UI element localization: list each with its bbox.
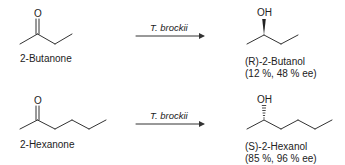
reaction-scheme: O OH O OH T. brockii T. brockii 2-Butano… xyxy=(0,0,345,165)
substrate-name-2: 2-Hexanone xyxy=(20,139,74,151)
s-2-hexanol-structure xyxy=(247,106,332,130)
wedge-bond xyxy=(262,19,266,35)
oxygen-label-1: O xyxy=(34,9,42,19)
reaction-arrow-1 xyxy=(136,33,205,39)
oxygen-label-2: O xyxy=(34,96,42,106)
reagent-label-1: T. brockii xyxy=(150,22,188,33)
product-name-1: (R)-2-Butanol xyxy=(245,56,305,68)
hash-bond xyxy=(262,106,266,119)
product-name-2: (S)-2-Hexanol xyxy=(245,141,307,153)
product-result-1: (12 %, 48 % ee) xyxy=(245,68,317,80)
r-2-butanol-structure xyxy=(247,19,298,44)
product-result-2: (85 %, 96 % ee) xyxy=(245,153,317,165)
hydroxyl-label-1: OH xyxy=(257,8,272,18)
reagent-label-2: T. brockii xyxy=(150,110,188,121)
reaction-arrow-2 xyxy=(136,121,205,127)
butanone-structure xyxy=(20,19,72,44)
hydroxyl-label-2: OH xyxy=(257,95,272,105)
hexanone-structure xyxy=(20,106,106,129)
substrate-name-1: 2-Butanone xyxy=(20,53,72,65)
